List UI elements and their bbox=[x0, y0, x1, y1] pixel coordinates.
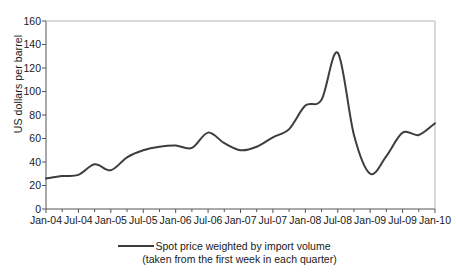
y-tick-label: 140 bbox=[19, 39, 41, 49]
chart-legend: Spot price weighted by import volume (ta… bbox=[0, 240, 449, 266]
legend-entry: Spot price weighted by import volume bbox=[118, 240, 330, 253]
y-axis-tick-labels: 160 140 120 100 80 60 40 20 0 bbox=[17, 0, 41, 276]
legend-line-swatch bbox=[118, 245, 154, 247]
y-tick-label: 120 bbox=[19, 63, 41, 73]
y-tick-label: 100 bbox=[19, 86, 41, 96]
y-tick-label: 160 bbox=[19, 16, 41, 26]
y-tick-marks bbox=[42, 21, 46, 209]
series-line-spot-price bbox=[46, 52, 435, 178]
axes bbox=[46, 21, 435, 209]
y-tick-label: 80 bbox=[19, 110, 41, 120]
y-tick-label: 0 bbox=[19, 204, 41, 214]
legend-label-line1: Spot price weighted by import volume bbox=[155, 240, 330, 252]
legend-label-line2: (taken from the first week in each quart… bbox=[0, 253, 449, 266]
y-tick-label: 20 bbox=[19, 180, 41, 190]
y-tick-label: 60 bbox=[19, 133, 41, 143]
chart-title bbox=[0, 0, 449, 2]
x-tick-marks bbox=[46, 209, 435, 213]
y-tick-label: 40 bbox=[19, 157, 41, 167]
x-tick-label: Jan-10 bbox=[412, 215, 456, 226]
